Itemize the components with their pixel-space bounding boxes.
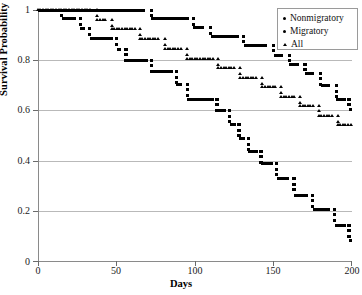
data-marker-triangle [133, 27, 137, 30]
data-marker-square [275, 168, 278, 171]
data-marker-triangle [311, 104, 315, 107]
data-marker-triangle [317, 104, 321, 107]
legend-label-all: All [291, 39, 303, 50]
y-tick-label-0-6: 0.6 [0, 105, 30, 115]
data-marker-square [292, 183, 295, 186]
data-marker-triangle [317, 109, 321, 112]
data-marker-triangle [185, 47, 189, 50]
data-marker-triangle [95, 8, 99, 11]
data-marker-triangle [330, 114, 334, 117]
data-marker-square [193, 26, 204, 29]
legend-item-migratory[interactable]: Migratory [283, 25, 357, 37]
data-marker-square [211, 35, 239, 38]
data-marker-square [117, 48, 122, 51]
data-marker-triangle [88, 8, 92, 11]
data-marker-square [305, 72, 314, 75]
data-marker-triangle [232, 66, 236, 69]
data-marker-triangle [238, 66, 242, 69]
data-marker-square [275, 173, 278, 176]
data-marker-square [277, 177, 290, 180]
data-marker-square [247, 137, 250, 140]
data-marker-triangle [179, 47, 183, 50]
data-marker-square [237, 123, 240, 126]
data-marker-square [217, 109, 226, 112]
data-marker-square [237, 129, 240, 132]
data-marker-square [335, 224, 346, 227]
data-marker-square [349, 239, 352, 242]
data-marker-triangle [211, 57, 215, 60]
x-tick-label-150: 150 [258, 266, 288, 276]
data-marker-triangle [279, 91, 283, 94]
data-marker-square [349, 108, 352, 111]
data-marker-square [333, 213, 336, 216]
data-marker-square [187, 98, 214, 101]
x-tick-label-50: 50 [101, 266, 131, 276]
data-marker-square [335, 84, 338, 87]
survival-probability-chart: Survival Probability 1 0.8 0.6 0.4 0.2 0… [0, 0, 362, 295]
data-marker-triangle [238, 72, 242, 75]
data-marker-square [79, 23, 82, 26]
data-marker-square [319, 77, 322, 80]
data-marker-triangle [298, 95, 302, 98]
data-marker-triangle [292, 95, 296, 98]
data-marker-square [294, 194, 308, 197]
data-marker-triangle [349, 123, 353, 126]
y-tick-label-0-4: 0.4 [0, 156, 30, 166]
legend-item-all[interactable]: All [283, 38, 357, 50]
data-marker-square [347, 98, 350, 101]
data-marker-square [186, 83, 189, 86]
data-marker-square [244, 44, 268, 47]
gridline-0-6 [38, 110, 352, 111]
legend-label-migratory: Migratory [290, 26, 329, 37]
data-marker-square [150, 59, 153, 62]
data-marker-square [319, 72, 322, 75]
data-marker-triangle [254, 76, 258, 79]
data-marker-square [151, 17, 189, 20]
data-marker-square [115, 43, 118, 46]
data-marker-square [292, 177, 295, 180]
data-marker-triangle [103, 18, 107, 21]
data-marker-square [311, 194, 314, 197]
data-marker-square [272, 44, 275, 47]
data-marker-square [230, 123, 236, 126]
legend-item-nonmigratory[interactable]: Nonmigratory [283, 12, 357, 24]
y-axis-line [38, 10, 39, 262]
data-marker-square [261, 162, 274, 165]
data-marker-triangle [273, 85, 277, 88]
data-marker-square [347, 103, 350, 106]
data-marker-square [288, 54, 291, 57]
data-marker-square [333, 208, 336, 211]
data-marker-square [79, 17, 82, 20]
data-marker-square [292, 188, 295, 191]
data-marker-square [175, 70, 178, 73]
x-tick-label-200: 200 [337, 266, 362, 276]
data-marker-triangle [279, 85, 283, 88]
legend-marker-dot-icon [283, 17, 286, 20]
legend-label-nonmigratory: Nonmigratory [290, 13, 344, 24]
data-marker-square [192, 17, 195, 20]
data-marker-square [150, 64, 153, 67]
data-marker-square [80, 27, 85, 30]
data-marker-square [88, 33, 91, 36]
data-marker-square [209, 26, 212, 29]
x-tick-label-100: 100 [180, 266, 210, 276]
legend: Nonmigratory Migratory All [277, 8, 358, 50]
data-marker-square [115, 37, 118, 40]
legend-marker-triangle-icon [283, 43, 287, 46]
data-marker-square [150, 9, 153, 12]
data-marker-square [333, 219, 336, 222]
data-marker-square [259, 150, 262, 153]
x-tick-mark-150 [273, 261, 274, 266]
data-marker-square [347, 235, 350, 238]
data-marker-square [247, 143, 250, 146]
data-marker-square [228, 115, 231, 118]
data-marker-square [313, 208, 330, 211]
data-marker-triangle [185, 53, 189, 56]
data-marker-triangle [163, 43, 167, 46]
data-marker-square [347, 229, 350, 232]
data-marker-square [259, 155, 262, 158]
data-marker-square [335, 90, 338, 93]
x-tick-label-0: 0 [23, 266, 53, 276]
data-marker-triangle [260, 76, 264, 79]
data-marker-square [336, 98, 345, 101]
